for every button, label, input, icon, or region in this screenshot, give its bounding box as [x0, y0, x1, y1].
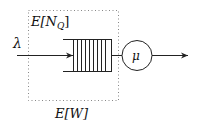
queue-diagram: E[NQ] λ μ E[W]: [0, 0, 197, 125]
service-rate-label: μ: [132, 49, 140, 63]
queue-length-label: E[NQ]: [30, 14, 69, 31]
arrival-rate-label: λ: [12, 35, 22, 51]
waiting-time-label: E[W]: [54, 106, 89, 121]
diagram-svg: E[NQ] λ μ E[W]: [0, 0, 197, 125]
